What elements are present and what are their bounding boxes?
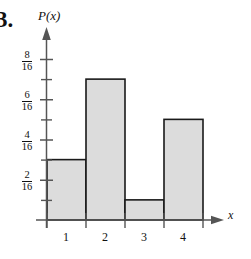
x-tick-label-4: 4: [173, 231, 193, 243]
y-tick-6-16-numerator: 6: [22, 90, 33, 102]
y-tick-2-16-denominator: 16: [22, 182, 33, 193]
y-tick-label-6-16: 6 16: [14, 90, 40, 112]
y-tick-8-16-numerator: 8: [22, 50, 33, 62]
x-tick-label-3: 3: [134, 231, 154, 243]
probability-histogram-figure: 3. P(x) x: [0, 0, 251, 259]
x-tick-label-1: 1: [56, 231, 76, 243]
y-tick-label-2-16: 2 16: [14, 170, 40, 192]
bar-1: [47, 160, 86, 220]
bar-4: [164, 119, 203, 220]
bar-2: [86, 79, 125, 220]
bar-3: [125, 200, 164, 220]
x-tick-label-2: 2: [95, 231, 115, 243]
y-tick-label-4-16: 4 16: [14, 130, 40, 152]
bars-group: [47, 79, 203, 220]
y-tick-label-8-16: 8 16: [14, 50, 40, 72]
y-tick-6-16-denominator: 16: [22, 102, 33, 113]
y-tick-2-16-numerator: 2: [22, 170, 33, 182]
y-tick-4-16-denominator: 16: [22, 142, 33, 153]
y-tick-4-16-numerator: 4: [22, 130, 33, 142]
y-tick-8-16-denominator: 16: [22, 62, 33, 73]
